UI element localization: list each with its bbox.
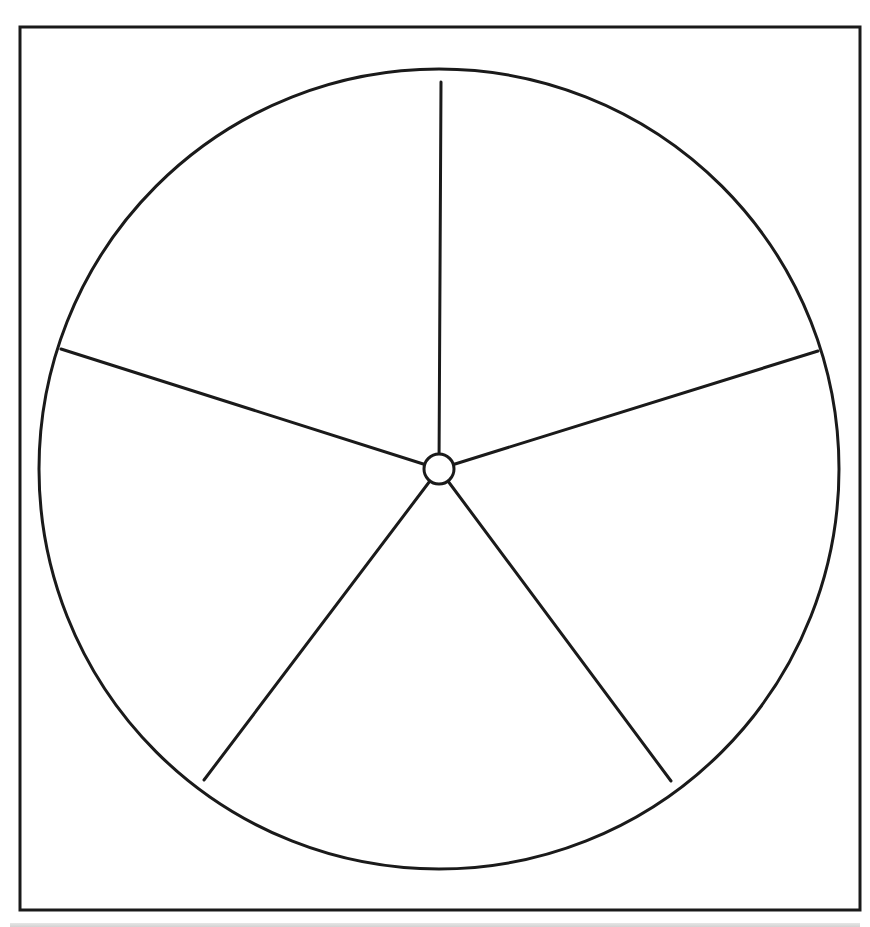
spokes-group: [61, 82, 818, 781]
spoke-4: [204, 469, 439, 780]
spoke-1: [439, 82, 441, 469]
spoke-3: [439, 469, 671, 781]
five-section-wheel-diagram: [0, 0, 870, 927]
spoke-5: [61, 349, 439, 469]
spoke-2: [439, 351, 818, 469]
center-hub: [424, 454, 454, 484]
page-edge-band: [10, 923, 860, 927]
